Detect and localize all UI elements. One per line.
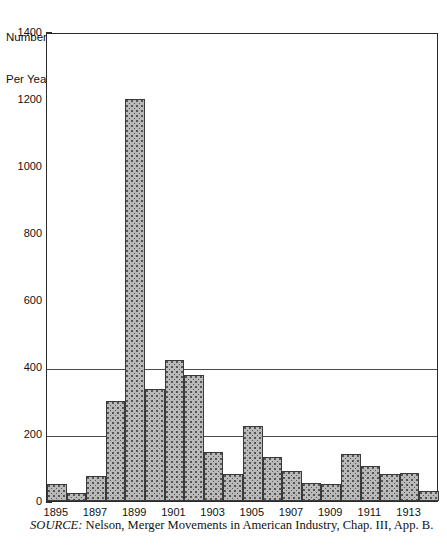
bar-1903 bbox=[204, 452, 224, 501]
y-tick-label-1000: 1000 bbox=[2, 160, 42, 172]
x-tick-label-1909: 1909 bbox=[318, 506, 342, 518]
bar-1895 bbox=[47, 484, 67, 501]
bar-1911 bbox=[361, 466, 381, 501]
plot-area bbox=[46, 33, 438, 502]
bar-1900 bbox=[145, 389, 165, 501]
y-tick-label-1200: 1200 bbox=[2, 93, 42, 105]
source-note: SOURCE: Nelson, Merger Movements in Amer… bbox=[30, 518, 442, 533]
merger-chart-figure: Number Per Year 020040060080010001200140… bbox=[0, 0, 447, 546]
bar-1896 bbox=[67, 493, 87, 501]
bar-1899 bbox=[125, 99, 145, 501]
bar-1902 bbox=[184, 375, 204, 501]
bar-1908 bbox=[302, 483, 322, 501]
bar-1910 bbox=[341, 454, 361, 501]
bar-1898 bbox=[106, 401, 126, 502]
x-tick-label-1911: 1911 bbox=[358, 506, 382, 518]
bar-1906 bbox=[263, 457, 283, 501]
y-tick-label-800: 800 bbox=[2, 227, 42, 239]
bar-1897 bbox=[86, 476, 106, 501]
bar-1909 bbox=[321, 484, 341, 501]
y-tick-label-600: 600 bbox=[2, 294, 42, 306]
x-tick-label-1905: 1905 bbox=[240, 506, 264, 518]
bar-1913 bbox=[400, 473, 420, 501]
y-axis-title-line2: Per Year bbox=[6, 72, 50, 86]
source-text: Nelson, Merger Movements in American Ind… bbox=[82, 518, 433, 532]
plot-inner bbox=[47, 34, 437, 501]
x-tick-label-1903: 1903 bbox=[200, 506, 224, 518]
source-label: SOURCE: bbox=[30, 518, 82, 532]
bar-1905 bbox=[243, 426, 263, 501]
x-tick-label-1897: 1897 bbox=[83, 506, 107, 518]
x-tick-label-1907: 1907 bbox=[279, 506, 303, 518]
x-tick-label-1899: 1899 bbox=[122, 506, 146, 518]
bar-1907 bbox=[282, 471, 302, 501]
y-tick-label-1400: 1400 bbox=[2, 26, 42, 38]
x-tick-label-1901: 1901 bbox=[161, 506, 185, 518]
x-tick-label-1895: 1895 bbox=[44, 506, 68, 518]
bar-1904 bbox=[223, 474, 243, 501]
y-tick-label-0: 0 bbox=[2, 495, 42, 507]
x-tick-label-1913: 1913 bbox=[396, 506, 420, 518]
bar-1914 bbox=[419, 491, 439, 501]
bar-series bbox=[47, 34, 437, 501]
bar-1901 bbox=[165, 360, 185, 501]
y-tick-label-200: 200 bbox=[2, 428, 42, 440]
bar-1912 bbox=[380, 474, 400, 501]
y-tick-label-400: 400 bbox=[2, 361, 42, 373]
